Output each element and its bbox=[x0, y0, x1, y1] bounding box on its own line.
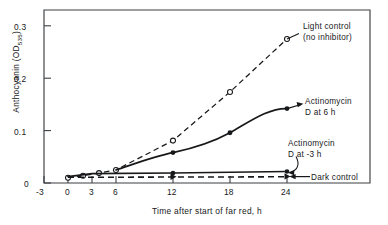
leader-light-control bbox=[287, 34, 299, 39]
y-axis-ticks bbox=[44, 26, 51, 183]
x-tick-label-24: 24 bbox=[281, 187, 291, 197]
series-label-dark-control: Dark control bbox=[311, 172, 358, 183]
y-tick-label-3: 0.3 bbox=[14, 22, 26, 32]
series-label-actinomycin-6h-line1: Actinomycin bbox=[305, 97, 352, 106]
series-label-light-control: Light control(no inhibitor) bbox=[303, 21, 352, 43]
x-tick-label-6: 6 bbox=[113, 187, 118, 197]
series-actinomycin-6h-markers bbox=[171, 106, 290, 155]
x-tick-label-m3: -3 bbox=[36, 187, 44, 197]
series-label-actinomycin-minus3h-line2: D at -3 h bbox=[288, 150, 322, 159]
x-axis-title: Time after start of far red, h bbox=[44, 206, 370, 216]
y-tick-label-2: 0.2 bbox=[14, 74, 26, 84]
leader-actinomycin-6h bbox=[287, 102, 303, 109]
x-tick-label-0: 0 bbox=[65, 187, 70, 197]
series-label-light-control-line2: (no inhibitor) bbox=[303, 33, 352, 42]
series-label-actinomycin-6h: ActinomycinD at 6 h bbox=[305, 96, 352, 118]
series-actinomycin-minus3h bbox=[68, 169, 289, 177]
y-tick-label-1: 0.1 bbox=[14, 127, 26, 137]
x-tick-label-12: 12 bbox=[167, 187, 177, 197]
x-tick-label-18: 18 bbox=[224, 187, 234, 197]
series-label-actinomycin-minus3h-line1: Actinomycin bbox=[288, 139, 335, 148]
series-label-actinomycin-minus3h: ActinomycinD at -3 h bbox=[288, 138, 335, 160]
series-label-light-control-line1: Light control bbox=[303, 22, 351, 31]
series-label-actinomycin-6h-line2: D at 6 h bbox=[305, 108, 336, 117]
y-tick-label-0: 0 bbox=[24, 179, 29, 189]
series-light-control-markers bbox=[66, 36, 290, 180]
y-axis-title-subscript: 535 bbox=[16, 34, 23, 45]
series-actinomycin-6h bbox=[116, 106, 289, 170]
leader-dark-control bbox=[289, 174, 310, 179]
x-tick-label-3: 3 bbox=[89, 187, 94, 197]
series-light-control bbox=[66, 36, 290, 180]
y-axis-title: Anthocyanin (OD535) bbox=[11, 17, 23, 127]
